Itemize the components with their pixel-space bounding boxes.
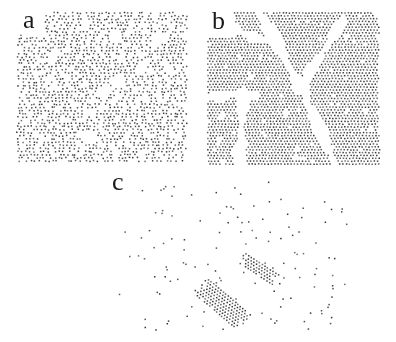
particle-dots-canvas [0,0,396,342]
simulation-snapshots-figure: a b c [0,0,396,342]
panel-c-label: c [112,169,124,195]
panel-b-label: b [212,8,225,34]
panel-a-label: a [23,7,35,33]
